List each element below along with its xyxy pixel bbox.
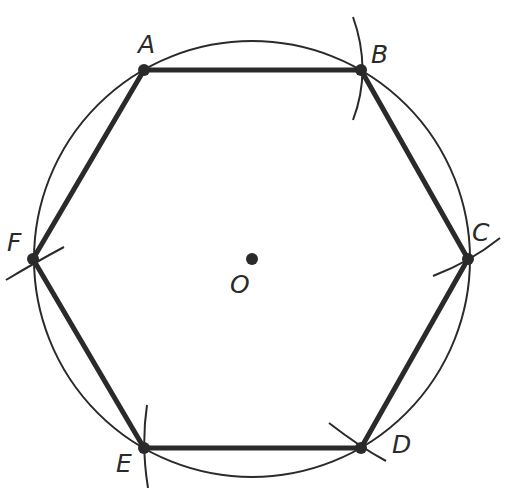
label-d: D [392,432,411,457]
center-point-o [246,253,258,265]
vertex-d [355,442,367,454]
label-e: E [116,451,132,476]
label-b: B [371,42,388,67]
vertex-f [27,253,39,265]
vertex-e [138,442,150,454]
label-a: A [138,32,155,57]
label-f: F [7,230,21,255]
hexagon-construction-diagram: A B C D E F O [0,0,508,488]
label-c: C [472,220,489,245]
vertex-a [138,64,150,76]
arc-mark-d [329,423,386,461]
vertex-c [462,253,474,265]
diagram-svg [0,0,508,488]
label-o: O [230,272,250,297]
vertex-b [355,64,367,76]
